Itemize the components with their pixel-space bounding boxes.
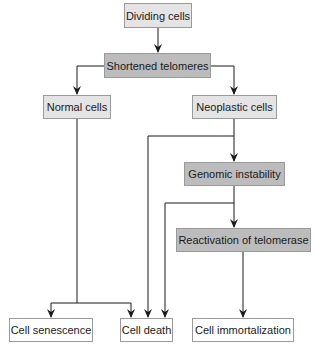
node-reactivation-of-telomerase: Reactivation of telomerase bbox=[176, 228, 311, 252]
node-genomic-instability: Genomic instability bbox=[184, 162, 285, 186]
node-cell-death: Cell death bbox=[120, 318, 173, 342]
node-cell-immortalization: Cell immortalization bbox=[192, 318, 294, 342]
node-dividing-cells: Dividing cells bbox=[124, 3, 192, 28]
node-cell-senescence: Cell senescence bbox=[9, 318, 93, 342]
node-shortened-telomeres: Shortened telomeres bbox=[104, 53, 211, 78]
node-normal-cells: Normal cells bbox=[43, 95, 111, 119]
telomere-flow-diagram: Dividing cells Shortened telomeres Norma… bbox=[0, 0, 315, 349]
arrow-shortened-to-neoplastic bbox=[211, 66, 234, 94]
node-neoplastic-cells: Neoplastic cells bbox=[192, 95, 277, 119]
arrow-shortened-to-normal bbox=[77, 66, 104, 94]
arrow-genomic-to-death bbox=[165, 203, 234, 317]
